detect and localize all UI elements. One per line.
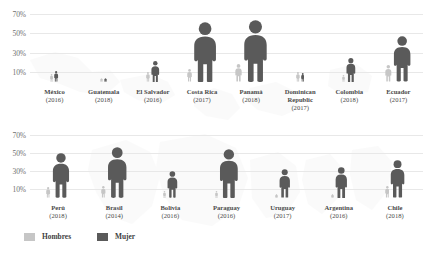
figure-columns-row-2: [30, 128, 423, 198]
pictogram-hombres-brasil: [101, 186, 106, 198]
legend-item-mujer[interactable]: Mujer: [97, 232, 135, 241]
category-name: Brasil: [106, 204, 123, 211]
figure-group-uruguay: [255, 128, 311, 198]
pictogram-hombres-colombia: [342, 75, 345, 82]
pictogram-hombres-costa-rica: [187, 69, 192, 82]
pictogram-hombres-el-salvador: [146, 72, 150, 82]
pictogram-mujer-el-salvador: [151, 61, 160, 82]
category-name: Uruguay: [270, 204, 295, 211]
y-axis-tick-30: 30%: [0, 167, 26, 176]
person-icon: [235, 64, 242, 82]
person-icon: [100, 78, 103, 82]
legend-item-hombres[interactable]: Hombres: [24, 232, 71, 241]
figure-group-guatemala: [79, 6, 128, 82]
figure-group-chile: [367, 128, 423, 198]
person-icon: [296, 72, 300, 82]
plot-area-row-2: [30, 128, 423, 198]
category-name: Colombia: [336, 88, 363, 95]
category-name: Perú: [51, 204, 65, 211]
person-icon: [390, 160, 405, 198]
figure-group-m-xico: [30, 6, 79, 82]
pictogram-hombres-chile: [385, 186, 390, 198]
category-label-paraguay: Paraguay(2016): [198, 204, 254, 220]
legend-label-hombres: Hombres: [42, 232, 71, 241]
legend-swatch-hombres: [24, 233, 35, 241]
figure-group-ecuador: [374, 6, 423, 82]
pictogram-hombres-uruguay: [275, 194, 278, 198]
category-year: (2018): [227, 96, 276, 104]
person-icon: [50, 74, 53, 82]
figure-group-panam-: [227, 6, 276, 82]
pictogram-mujer-per-: [52, 153, 70, 198]
category-name: Ecuador: [386, 88, 410, 95]
category-year: (2018): [367, 212, 423, 220]
pictogram-hombres-paraguay: [215, 191, 218, 198]
category-label-dominican-republic: Dominican Republic(2017): [276, 88, 325, 113]
category-year: (2017): [255, 212, 311, 220]
pictogram-hombres-bolivia: [163, 191, 166, 198]
category-labels-row-1: México(2016)Guatemala(2018)El Salvador(2…: [30, 88, 423, 113]
person-icon: [215, 191, 218, 198]
person-icon: [151, 61, 160, 82]
legend-swatch-mujer: [97, 233, 108, 241]
pictogram-hombres-guatemala: [100, 78, 103, 82]
person-icon: [335, 167, 348, 198]
person-icon: [243, 20, 268, 82]
person-icon: [342, 75, 345, 82]
figure-group-costa-rica: [177, 6, 226, 82]
category-year: (2017): [276, 104, 325, 112]
pictogram-hombres-argentina: [331, 194, 334, 198]
category-name: Chile: [387, 204, 402, 211]
pictogram-mujer-dominican-republic: [301, 73, 305, 82]
category-year: (2018): [30, 212, 86, 220]
legend-label-mujer: Mujer: [115, 232, 135, 241]
y-axis-tick-10: 10%: [0, 68, 26, 77]
category-name: Bolivia: [160, 204, 180, 211]
y-axis-tick-50: 50%: [0, 29, 26, 38]
category-name: Paraguay: [213, 204, 240, 211]
pictogram-mujer-guatemala: [104, 78, 107, 82]
person-icon: [275, 194, 278, 198]
category-year: (2014): [86, 212, 142, 220]
pictogram-mujer-brasil: [107, 147, 127, 198]
category-year: (2017): [374, 96, 423, 104]
pictogram-chart-page: 70%50%30%10% México(2016)Guatemala(2018)…: [0, 0, 427, 257]
person-icon: [331, 194, 334, 198]
category-label-guatemala: Guatemala(2018): [79, 88, 128, 113]
category-label-m-xico: México(2016): [30, 88, 79, 113]
pictogram-mujer-argentina: [335, 167, 348, 198]
person-icon: [163, 191, 166, 198]
category-label-chile: Chile(2018): [367, 204, 423, 220]
pictogram-mujer-colombia: [346, 58, 356, 82]
pictogram-mujer-uruguay: [279, 169, 290, 198]
figure-group-dominican-republic: [276, 6, 325, 82]
chart-row-1: 70%50%30%10% México(2016)Guatemala(2018)…: [0, 6, 427, 118]
category-label-uruguay: Uruguay(2017): [255, 204, 311, 220]
pictogram-mujer-bolivia: [167, 171, 178, 198]
y-axis-tick-50: 50%: [0, 149, 26, 158]
person-icon: [107, 147, 127, 198]
category-year: (2018): [79, 96, 128, 104]
category-year: (2016): [198, 212, 254, 220]
person-icon: [46, 187, 50, 198]
category-year: (2016): [128, 96, 177, 104]
category-name: Guatemala: [88, 88, 119, 95]
pictogram-hombres-m-xico: [50, 74, 53, 82]
category-label-ecuador: Ecuador(2017): [374, 88, 423, 113]
person-icon: [54, 71, 58, 82]
person-icon: [187, 69, 192, 82]
person-icon: [146, 72, 150, 82]
pictogram-hombres-dominican-republic: [296, 72, 300, 82]
category-label-el-salvador: El Salvador(2016): [128, 88, 177, 113]
person-icon: [219, 149, 239, 198]
person-icon: [193, 22, 217, 82]
category-name: México: [44, 88, 65, 95]
person-icon: [167, 171, 178, 198]
chart-row-2: 70%50%30%10% Perú(2018)Brasil(2014)Boliv…: [0, 128, 427, 228]
category-label-argentina: Argentina(2016): [311, 204, 367, 220]
pictogram-hombres-per-: [46, 187, 50, 198]
person-icon: [385, 65, 392, 82]
figure-group-brasil: [86, 128, 142, 198]
person-icon: [385, 186, 390, 198]
person-icon: [101, 186, 106, 198]
